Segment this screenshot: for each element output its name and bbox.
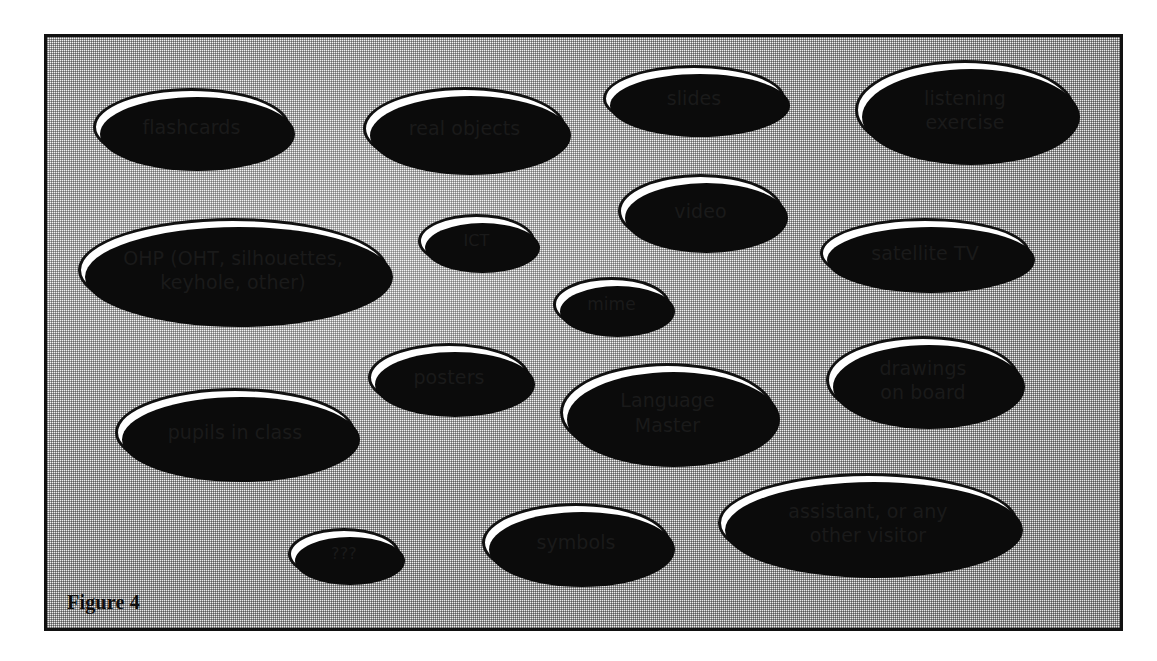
concept-oval-real-objects: real objects <box>363 87 566 170</box>
concept-oval-listening-exercise: listening exercise <box>855 60 1075 160</box>
concept-oval-satellite-tv: satellite TV <box>820 218 1030 288</box>
concept-oval-drawings-on-board: drawings on board <box>826 336 1020 424</box>
concept-oval-label: posters <box>405 365 492 389</box>
concept-oval-symbols: symbols <box>482 503 670 582</box>
concept-oval-video: video <box>618 174 783 248</box>
concept-oval-mime: mime <box>553 277 670 332</box>
concept-oval-flashcards: flashcards <box>93 88 290 166</box>
concept-oval-label: symbols <box>528 530 623 554</box>
concept-oval-label: ICT <box>456 231 498 251</box>
concept-oval-ohp: OHP (OHT, silhouettes, keyhole, other) <box>78 218 388 322</box>
concept-oval-posters: posters <box>368 343 530 412</box>
concept-oval-label: slides <box>659 86 730 110</box>
concept-oval-unknown: ??? <box>288 528 400 580</box>
figure-frame: flashcardsreal objectsslideslistening ex… <box>44 34 1123 631</box>
concept-oval-label: assistant, or any other visitor <box>780 499 955 548</box>
concept-oval-label: pupils in class <box>160 420 311 444</box>
concept-oval-assistant: assistant, or any other visitor <box>718 473 1018 573</box>
concept-oval-ict: ICT <box>418 214 535 268</box>
concept-oval-label: listening exercise <box>916 86 1014 135</box>
concept-oval-label: mime <box>579 294 644 316</box>
concept-oval-label: flashcards <box>134 115 248 139</box>
concept-oval-pupils-in-class: pupils in class <box>115 388 355 477</box>
concept-oval-label: ??? <box>323 544 365 564</box>
concept-oval-label: drawings on board <box>871 356 974 405</box>
figure-canvas: flashcardsreal objectsslideslistening ex… <box>0 0 1157 661</box>
concept-oval-label: video <box>666 199 734 223</box>
concept-oval-label: satellite TV <box>863 241 987 265</box>
figure-caption: Figure 4 <box>67 591 140 614</box>
concept-oval-slides: slides <box>603 65 785 132</box>
concept-oval-label: real objects <box>401 116 529 140</box>
concept-oval-label: OHP (OHT, silhouettes, keyhole, other) <box>115 246 351 295</box>
concept-oval-label: Language Master <box>612 388 723 437</box>
concept-oval-language-master: Language Master <box>560 363 775 462</box>
